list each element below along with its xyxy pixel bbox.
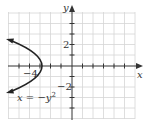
y-axis-label: y [63,3,69,13]
equation-equals: = − [23,92,46,103]
curve-arrow-lower-icon [6,89,14,94]
equation-label: x = −y2 [17,92,56,103]
curve-arrow-upper-icon [6,39,14,44]
equation-exponent: 2 [51,91,55,99]
x-axis-label: x [137,70,143,80]
x-tick-label-neg4: −4 [23,69,38,79]
y-axis-arrow-icon [69,5,75,12]
y-tick-label-2: 2 [63,40,69,50]
y-tick-label-neg2: −2 [57,82,72,92]
graph-plot [0,0,149,126]
